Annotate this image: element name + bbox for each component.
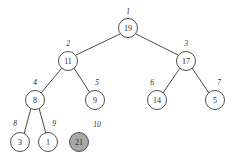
node-key-label: 5 xyxy=(213,96,217,105)
nodes-group: 11921131748596147583911021 xyxy=(11,7,225,152)
node-index-label: 1 xyxy=(126,7,130,16)
node-key-label: 17 xyxy=(182,57,190,66)
tree-node[interactable]: 614 xyxy=(148,78,167,110)
tree-edge xyxy=(39,108,46,134)
tree-node[interactable]: 75 xyxy=(206,78,225,110)
node-index-label: 3 xyxy=(183,39,188,48)
node-key-label: 14 xyxy=(153,96,161,105)
node-index-label: 6 xyxy=(150,78,154,87)
tree-canvas: 11921131748596147583911021 xyxy=(0,0,234,164)
node-key-label: 1 xyxy=(46,138,50,147)
tree-node[interactable]: 211 xyxy=(59,39,78,71)
tree-edge xyxy=(163,68,180,93)
node-index-label: 9 xyxy=(52,119,56,128)
tree-node[interactable]: 317 xyxy=(177,39,196,71)
tree-edge xyxy=(136,34,178,55)
node-key-label: 9 xyxy=(93,96,97,105)
node-key-label: 19 xyxy=(124,24,132,33)
tree-edge xyxy=(74,68,90,93)
node-index-label: 2 xyxy=(66,39,70,48)
node-index-label: 4 xyxy=(33,78,37,87)
heap-tree-diagram: 11921131748596147583911021 xyxy=(0,0,234,164)
tree-edge xyxy=(76,34,120,55)
node-index-label: 5 xyxy=(95,78,99,87)
tree-edge xyxy=(192,68,209,93)
node-index-label: 8 xyxy=(13,119,17,128)
tree-node[interactable]: 48 xyxy=(26,78,45,110)
node-index-label: 7 xyxy=(217,78,221,87)
node-key-label: 11 xyxy=(64,57,72,66)
tree-node[interactable]: 59 xyxy=(86,78,105,110)
node-index-label: 10 xyxy=(93,120,101,129)
node-key-label: 21 xyxy=(75,138,83,147)
node-key-label: 3 xyxy=(18,138,22,147)
tree-node[interactable]: 1021 xyxy=(70,120,102,152)
tree-edge xyxy=(24,108,31,134)
node-key-label: 8 xyxy=(33,96,37,105)
tree-node[interactable]: 119 xyxy=(119,7,138,38)
tree-edge xyxy=(41,68,62,93)
tree-node[interactable]: 91 xyxy=(39,119,58,152)
